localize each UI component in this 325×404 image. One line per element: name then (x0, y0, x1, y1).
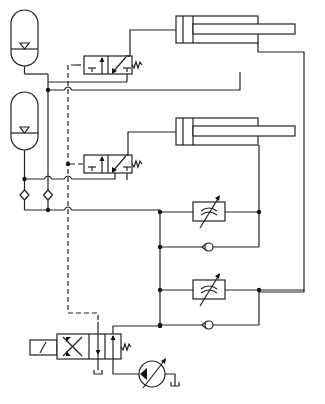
cylinder-2: Double-acting cylinder 2 (176, 118, 295, 212)
cylinder-1: Double-acting cylinder 1 (176, 16, 304, 292)
spring-icon (132, 62, 142, 68)
throttle-upper: Adjustable throttle (upper) (158, 195, 261, 228)
throttle-lower: Adjustable throttle (lower) (158, 273, 304, 306)
pump: Variable displacement pump (139, 358, 175, 388)
spring-icon (121, 344, 131, 350)
spring-icon (132, 161, 142, 167)
pilot-line: Pilot line (dashed) (68, 65, 98, 322)
valve-solenoid: Solenoid-operated directional valve, spr… (30, 322, 131, 370)
hydraulic-circuit-diagram: Hydraulic circuit with two accumulators,… (0, 0, 325, 404)
valve-3-2-upper: 3/2 pilot-operated valve (upper), spring… (76, 56, 142, 74)
tank-valve: Tank (94, 370, 102, 374)
valve-3-2-lower: 3/2 pilot-operated valve (lower), spring… (66, 155, 142, 173)
accumulator-2: Accumulator 2 (11, 92, 38, 150)
lower-valve-lines (126, 132, 176, 180)
check-acc-2: Check valve (accumulator 2) (44, 190, 53, 200)
check-acc-1: Check valve (accumulator 1) (20, 190, 29, 200)
accumulator-1: Accumulator 1 (11, 10, 48, 74)
